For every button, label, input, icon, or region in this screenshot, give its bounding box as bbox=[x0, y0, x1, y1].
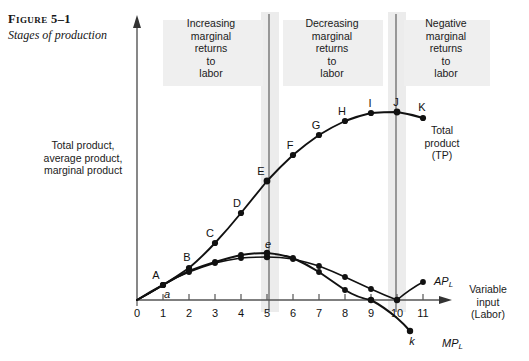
mp-text: MP bbox=[442, 337, 459, 349]
point-label-j: J bbox=[389, 96, 403, 108]
point-label-d: D bbox=[230, 197, 244, 209]
x-tick-label-1: 1 bbox=[155, 307, 171, 319]
x-tick-label-4: 4 bbox=[233, 307, 249, 319]
point-label-f: F bbox=[283, 139, 297, 151]
y-axis-arrow bbox=[133, 15, 141, 28]
total-product-curve bbox=[137, 112, 423, 300]
y-axis-label: Total product, average product, marginal… bbox=[34, 139, 132, 177]
x-tick-label-9: 9 bbox=[363, 307, 379, 319]
mp-subscript: L bbox=[459, 342, 463, 351]
ap-subscript: L bbox=[449, 280, 453, 289]
x-tick-label-8: 8 bbox=[337, 307, 353, 319]
point-label-k-upper: K bbox=[415, 101, 429, 113]
point-label-a-lower: a bbox=[160, 288, 174, 300]
ap-text: AP bbox=[434, 275, 449, 287]
x-tick-label-3: 3 bbox=[207, 307, 223, 319]
x-tick-label-7: 7 bbox=[311, 307, 327, 319]
point-label-b: B bbox=[180, 251, 194, 263]
x-axis-arrow bbox=[439, 296, 452, 304]
x-tick-label-10: 10 bbox=[389, 307, 405, 319]
point-label-e-upper: E bbox=[254, 165, 268, 177]
stage-label-negative-returns: Negative marginal returns to labor bbox=[404, 17, 488, 80]
stage-label-increasing-returns: Increasing marginal returns to labor bbox=[163, 17, 259, 80]
x-axis-label: Variable input (Labor) bbox=[452, 283, 524, 321]
point-label-h: H bbox=[335, 105, 349, 117]
point-label-k-lower: k bbox=[405, 335, 419, 347]
x-tick-label-6: 6 bbox=[285, 307, 301, 319]
x-tick-label-2: 2 bbox=[181, 307, 197, 319]
marginal-product-label: MPL bbox=[442, 337, 463, 351]
figure-container: Figure 5–1 Stages of production bbox=[0, 0, 529, 361]
x-tick-label-0: 0 bbox=[129, 307, 145, 319]
total-product-annotation: Total product (TP) bbox=[409, 124, 475, 162]
average-product-label: APL bbox=[434, 275, 453, 289]
point-label-e-lower: e bbox=[261, 238, 275, 250]
x-tick-label-5: 5 bbox=[259, 307, 275, 319]
point-label-i: I bbox=[363, 97, 377, 109]
point-label-a-upper: A bbox=[149, 269, 163, 281]
point-label-c: C bbox=[203, 227, 217, 239]
x-tick-label-11: 11 bbox=[415, 307, 431, 319]
shade-band-stage1 bbox=[261, 12, 279, 312]
marginal-product-points bbox=[160, 250, 413, 334]
point-label-g: G bbox=[309, 119, 323, 131]
stage-label-decreasing-returns: Decreasing marginal returns to labor bbox=[281, 17, 383, 80]
